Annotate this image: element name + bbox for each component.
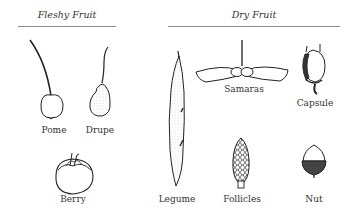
samaras-icon (196, 40, 288, 82)
berry-icon (56, 153, 93, 194)
capsule-icon (303, 44, 325, 94)
follicles-icon (233, 138, 249, 188)
capsule-label: Capsule (297, 98, 334, 108)
legume-label: Legume (159, 194, 196, 204)
drupe-label: Drupe (86, 125, 114, 135)
legume-icon (169, 51, 184, 186)
berry-label: Berry (60, 194, 86, 204)
drupe-icon (90, 47, 110, 116)
nut-icon (302, 145, 326, 178)
pome-label: Pome (42, 125, 67, 135)
samaras-label: Samaras (224, 84, 264, 94)
pome-icon (30, 40, 63, 119)
follicles-label: Follicles (223, 194, 261, 204)
fruit-illustrations (0, 0, 351, 218)
nut-label: Nut (305, 194, 322, 204)
